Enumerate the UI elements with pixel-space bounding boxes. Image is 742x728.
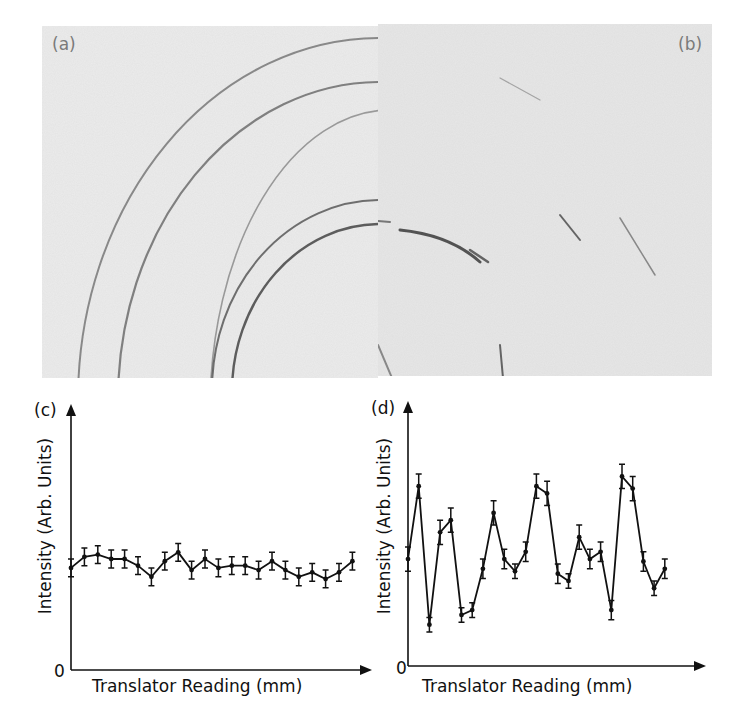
data-point: [588, 557, 593, 562]
data-point: [630, 486, 635, 491]
data-point: [534, 484, 539, 489]
data-point: [609, 608, 614, 613]
chart-d-axes: [403, 401, 706, 671]
data-point: [620, 474, 625, 479]
chart-d-y-arrow-icon: [403, 401, 413, 413]
data-point: [577, 535, 582, 540]
data-point: [513, 569, 518, 574]
data-point: [448, 518, 453, 523]
data-point: [459, 613, 464, 618]
chart-d-x-arrow-icon: [694, 661, 706, 671]
data-point: [481, 566, 486, 571]
data-point: [438, 530, 443, 535]
data-point: [491, 511, 496, 516]
data-point: [566, 579, 571, 584]
data-point: [502, 557, 507, 562]
data-point: [406, 557, 411, 562]
data-point: [427, 622, 432, 627]
chart-d-series: [405, 464, 668, 632]
data-point: [523, 549, 528, 554]
data-point: [555, 571, 560, 576]
data-point: [598, 549, 603, 554]
chart-d: [0, 0, 742, 728]
data-point: [545, 491, 550, 496]
data-point: [652, 586, 657, 591]
data-point: [662, 566, 667, 571]
data-point: [470, 608, 475, 613]
figure: (a) (b) (c) Intensity (Arb. Units) 0 Tra…: [0, 0, 742, 728]
data-point: [416, 484, 421, 489]
data-point: [641, 559, 646, 564]
